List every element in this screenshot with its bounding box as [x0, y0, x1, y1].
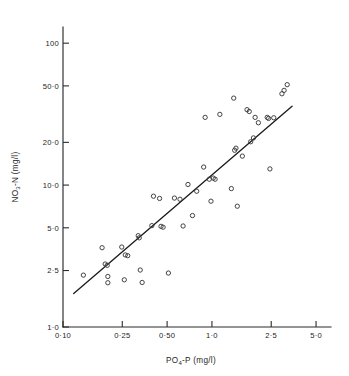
data-point: [157, 196, 161, 200]
data-point: [282, 88, 286, 92]
data-point: [195, 189, 199, 193]
data-point: [178, 197, 182, 201]
x-tick-label: 0·25: [114, 331, 130, 340]
y-tick-label: 20·0: [43, 138, 59, 147]
data-point: [203, 115, 207, 119]
y-axis-tick-labels: 1·02·55·010·020·050·0100: [43, 39, 59, 332]
x-tick-label: 2·5: [265, 331, 277, 340]
data-point: [268, 167, 272, 171]
data-point: [218, 112, 222, 116]
data-point: [256, 121, 260, 125]
y-tick-label: 5·0: [47, 224, 59, 233]
x-tick-label: 0·50: [159, 331, 175, 340]
y-tick-label: 50·0: [43, 82, 59, 91]
data-point: [81, 273, 85, 277]
data-point: [166, 271, 170, 275]
data-point: [186, 182, 190, 186]
data-point: [100, 246, 104, 250]
data-point: [253, 115, 257, 119]
scatter-plot-figure: 1·02·55·010·020·050·0100 0·100·250·501·0…: [0, 0, 349, 376]
data-point: [285, 83, 289, 87]
y-tick-label: 10·0: [43, 181, 59, 190]
axes-group: [63, 27, 331, 327]
y-tick-label: 2·5: [47, 266, 59, 275]
x-axis-ticks: [63, 321, 316, 327]
data-point: [172, 196, 176, 200]
data-point: [190, 213, 194, 217]
x-tick-label: 5·0: [310, 331, 322, 340]
data-point: [151, 194, 155, 198]
data-point: [138, 268, 142, 272]
data-point: [272, 116, 276, 120]
data-point: [229, 186, 233, 190]
data-point: [202, 165, 206, 169]
data-point: [235, 204, 239, 208]
x-tick-label: 1·0: [206, 331, 218, 340]
y-axis-title: NO3-N (mg/l): [11, 151, 21, 202]
y-tick-label: 100: [46, 39, 59, 48]
x-axis-title: PO4-P (mg/l): [166, 356, 216, 366]
data-point: [120, 245, 124, 249]
data-point-markers: [81, 83, 289, 285]
data-point: [209, 199, 213, 203]
x-axis-tick-labels: 0·100·250·501·02·55·0: [55, 331, 322, 340]
data-point: [122, 278, 126, 282]
data-point: [106, 281, 110, 285]
plot-canvas: 1·02·55·010·020·050·0100 0·100·250·501·0…: [0, 0, 349, 376]
data-point: [140, 280, 144, 284]
data-point: [240, 154, 244, 158]
data-point: [232, 96, 236, 100]
y-axis-ticks: [63, 43, 69, 327]
x-tick-label: 0·10: [55, 331, 71, 340]
data-point: [106, 274, 110, 278]
data-point: [181, 224, 185, 228]
